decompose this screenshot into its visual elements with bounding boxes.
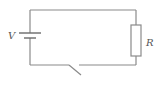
circuit-diagram: V R	[0, 0, 160, 111]
switch-blade	[69, 65, 81, 75]
resistor	[131, 25, 141, 56]
battery-label: V	[8, 30, 17, 41]
battery	[19, 33, 41, 38]
resistor-label: R	[145, 37, 154, 48]
